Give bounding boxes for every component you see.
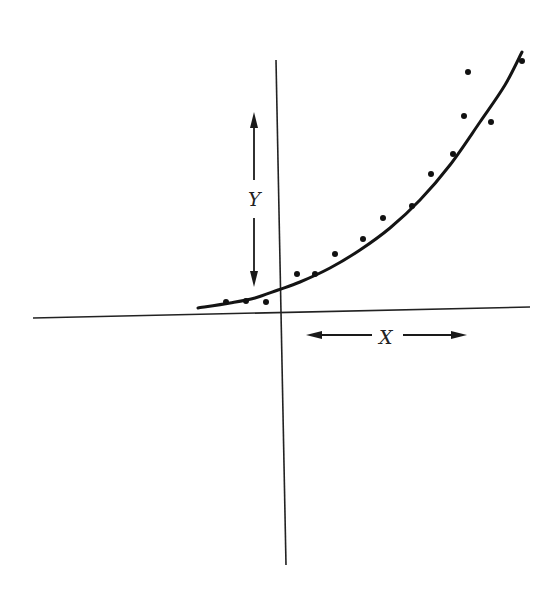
data-point: [488, 119, 494, 125]
y-displacement-label: Y: [248, 190, 261, 209]
data-point: [223, 299, 229, 305]
data-point: [380, 215, 386, 221]
data-point: [519, 58, 525, 64]
data-point: [428, 171, 434, 177]
data-points: [223, 58, 525, 305]
data-point: [360, 236, 366, 242]
data-point: [332, 251, 338, 257]
fitted-curve: [198, 52, 522, 308]
data-point: [312, 271, 318, 277]
data-point: [465, 69, 471, 75]
data-point: [409, 203, 415, 209]
data-point: [263, 299, 269, 305]
data-point: [450, 151, 456, 157]
data-point: [243, 298, 249, 304]
data-point: [294, 271, 300, 277]
diagram-canvas: [0, 0, 557, 593]
x-displacement-label: X: [379, 328, 393, 347]
data-point: [461, 113, 467, 119]
